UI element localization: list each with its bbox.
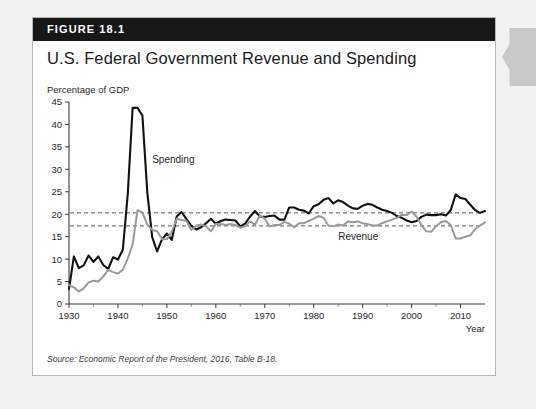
y-axis-unit-label: Percentage of GDP	[47, 84, 129, 95]
x-tick-label: 1970	[254, 310, 275, 321]
y-tick-label: 0	[57, 298, 62, 309]
figure-title: U.S. Federal Government Revenue and Spen…	[47, 49, 416, 68]
x-tick-label: 1930	[58, 310, 79, 321]
x-tick-label: 1990	[352, 310, 373, 321]
y-tick-label: 20	[51, 209, 62, 220]
y-tick-label: 30	[51, 164, 62, 175]
x-tick-label: 2010	[450, 310, 471, 321]
y-tick-label: 35	[51, 141, 62, 152]
y-tick-label: 15	[51, 231, 62, 242]
chart-axes: 0510152025303540451930194019501960197019…	[51, 96, 485, 334]
y-tick-label: 40	[51, 119, 62, 130]
y-tick-label: 5	[57, 276, 62, 287]
page-root: FIGURE 18.1 U.S. Federal Government Reve…	[0, 0, 536, 409]
series-line-revenue	[69, 210, 485, 291]
y-tick-label: 10	[51, 254, 62, 265]
chart-series-lines	[69, 108, 485, 292]
figure-card: FIGURE 18.1 U.S. Federal Government Reve…	[32, 17, 496, 376]
x-tick-label: 2000	[401, 310, 422, 321]
page-edge-tab-icon	[502, 28, 536, 86]
x-tick-label: 1960	[205, 310, 226, 321]
figure-source-note: Source: Economic Report of the President…	[47, 354, 277, 364]
annotation-revenue: Revenue	[338, 231, 378, 242]
annotation-spending: Spending	[152, 154, 194, 165]
y-tick-label: 25	[51, 186, 62, 197]
y-tick-label: 45	[51, 96, 62, 107]
x-axis-title: Year	[466, 323, 485, 334]
figure-header-bar: FIGURE 18.1	[33, 18, 495, 41]
series-line-spending	[69, 108, 485, 289]
x-tick-label: 1940	[107, 310, 128, 321]
x-tick-label: 1980	[303, 310, 324, 321]
revenue-spending-line-chart: 0510152025303540451930194019501960197019…	[33, 96, 497, 344]
chart-plot-area: 0510152025303540451930194019501960197019…	[33, 96, 497, 344]
chart-annotations: SpendingRevenue	[152, 154, 378, 242]
figure-number-label: FIGURE 18.1	[47, 23, 125, 35]
x-tick-label: 1950	[156, 310, 177, 321]
